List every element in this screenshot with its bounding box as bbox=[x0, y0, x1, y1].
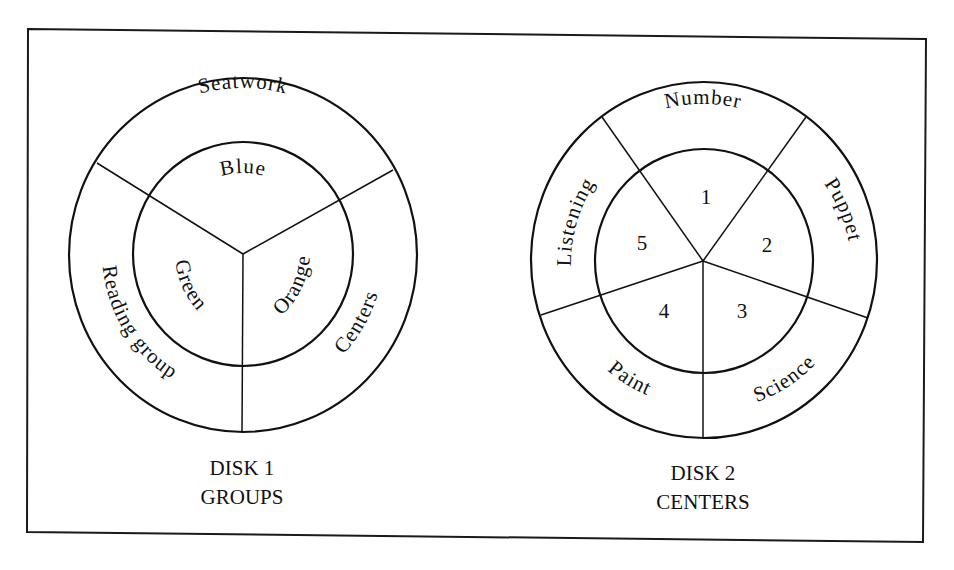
disk2-caption-subtitle: CENTERS bbox=[656, 490, 749, 514]
disk2-outer-label-paint: Paint bbox=[604, 355, 656, 400]
disk2-outer-label-listening: Listening bbox=[552, 173, 600, 267]
disk1-outer-label-reading-group: Reading group bbox=[97, 264, 182, 384]
disk2-spoke-upper-left bbox=[602, 117, 703, 261]
disk1-spoke-down bbox=[242, 254, 243, 432]
disk1-caption-title: DISK 1 bbox=[210, 456, 275, 480]
disk2-inner-label-1: 1 bbox=[701, 185, 712, 209]
disk1-spoke-upper-right bbox=[243, 170, 393, 254]
disk2-centers: Number Listening Puppet Paint Science 1 … bbox=[531, 82, 877, 514]
disk2-spoke-left bbox=[541, 261, 703, 315]
disk1-outer-label-seatwork: Seatwork bbox=[195, 69, 290, 99]
figure-canvas: Seatwork Reading group Centers Blue Gree… bbox=[0, 0, 954, 570]
disk1-inner-label-blue: Blue bbox=[218, 154, 269, 181]
disk1-groups: Seatwork Reading group Centers Blue Gree… bbox=[69, 69, 417, 509]
disk2-caption-title: DISK 2 bbox=[671, 461, 736, 485]
disk1-inner-label-green: Green bbox=[170, 257, 213, 315]
disk1-outer-label-centers: Centers bbox=[329, 287, 383, 358]
disk2-inner-label-2: 2 bbox=[762, 233, 773, 257]
disk2-inner-label-4: 4 bbox=[659, 299, 670, 323]
disk2-inner-label-5: 5 bbox=[637, 231, 648, 255]
disk1-inner-label-orange: Orange bbox=[268, 254, 316, 320]
disk2-spoke-right bbox=[703, 261, 868, 318]
disk2-outer-label-number: Number bbox=[662, 85, 744, 113]
disk1-caption-subtitle: GROUPS bbox=[201, 485, 284, 509]
disk1-spoke-upper-left bbox=[97, 163, 243, 254]
disk2-inner-label-3: 3 bbox=[737, 299, 748, 323]
disk2-spoke-upper-right bbox=[703, 117, 806, 261]
